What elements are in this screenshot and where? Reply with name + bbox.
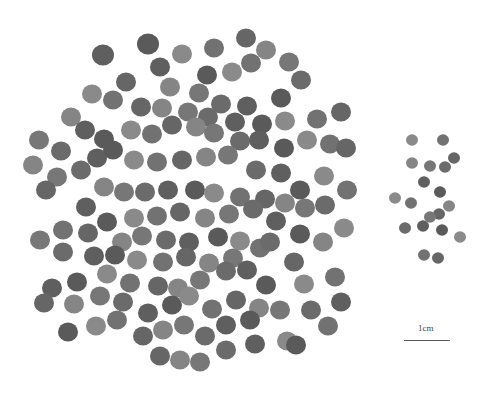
large-seed [137,34,159,55]
small-seed [436,224,448,235]
large-seed [216,262,236,281]
large-seed [218,146,238,165]
large-seed [274,139,294,158]
small-seed [418,249,430,260]
large-seed [208,228,228,247]
large-seed [230,232,250,251]
large-seed [172,45,192,64]
small-seed [418,176,430,187]
large-seed [204,184,224,203]
large-seed [105,246,125,265]
large-seed [179,287,199,306]
large-seed [135,183,155,202]
large-seed [195,209,215,228]
large-seed [314,167,334,186]
large-seed [162,296,182,315]
large-seed [271,89,291,108]
large-seed [84,247,104,266]
large-seed [204,39,224,58]
large-seed [196,148,216,167]
large-seed [325,268,345,287]
large-seed [290,225,310,244]
large-seed [103,141,123,160]
large-seed [270,301,290,320]
large-seed [275,112,295,131]
large-seed [150,58,170,77]
large-seed [226,291,246,310]
large-seed [260,233,280,252]
large-seed [313,233,333,252]
large-seed [133,327,153,346]
large-seed [237,261,257,280]
large-seed [152,99,172,118]
large-seed [246,161,266,180]
large-seed [297,131,317,150]
large-seed [243,200,263,219]
large-seed [114,183,134,202]
large-seed [92,45,114,66]
large-seed [131,98,151,117]
large-seed [197,66,217,85]
small-seed [437,134,449,145]
small-seed [454,231,466,242]
large-seed [290,181,310,200]
large-seed [107,311,127,330]
large-seed [142,125,162,144]
large-seed [174,316,194,335]
large-seed [30,231,50,250]
large-seed [156,231,176,250]
large-seed [158,181,178,200]
large-seed [204,124,224,143]
scale-bar-label: 1cm [418,323,434,333]
large-seed [295,199,315,218]
large-seed [113,293,133,312]
large-seed [53,243,73,262]
large-seed [275,194,295,213]
large-seed [172,151,192,170]
large-seed [97,213,117,232]
large-seed [237,97,257,116]
small-seed [448,152,460,163]
large-seed [127,251,147,270]
large-seed [334,219,354,238]
large-seed [186,118,206,137]
large-seed [256,276,276,295]
large-seed [103,91,123,110]
large-seed [222,63,242,82]
large-seed [190,271,210,290]
large-seed [76,198,96,217]
small-seed [389,192,401,203]
large-seed [64,295,84,314]
large-seed [294,275,314,294]
large-seed [86,317,106,336]
large-seed [34,294,54,313]
large-seed [252,115,272,134]
large-seed [153,253,173,272]
large-seed [337,181,357,200]
small-seed [406,134,418,145]
large-seed [189,84,209,103]
large-seed [291,71,311,90]
large-seed [160,78,180,97]
large-seed [120,274,140,293]
small-seed [439,161,451,172]
large-seed [225,113,245,132]
large-seed [284,253,304,272]
large-seed [219,205,239,224]
large-seed [190,353,210,372]
large-seed [318,317,338,336]
large-seed [176,248,196,267]
small-seed [434,186,446,197]
large-seed [185,181,205,200]
large-seed [236,29,256,48]
large-seed [336,139,356,158]
large-seed [29,131,49,150]
large-seed [195,327,215,346]
large-seed [241,54,261,73]
large-seed [94,178,114,197]
large-seed [82,85,102,104]
seed-field [0,0,486,395]
large-seed [286,336,306,355]
large-seed [121,121,141,140]
large-seed [216,341,236,360]
